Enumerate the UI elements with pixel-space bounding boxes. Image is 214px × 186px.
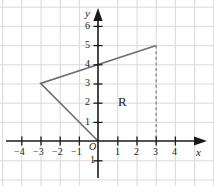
x-tick-label-3: 3 [153, 147, 158, 157]
x-axis-label: x [196, 147, 201, 158]
coordinate-plane-figure: −4 −3 −2 −1 1 2 3 4 6 5 4 3 2 1 1 O x y … [0, 0, 214, 186]
region-label-r: R [118, 95, 127, 108]
x-tick-label--3: −3 [33, 147, 44, 157]
x-axis [6, 136, 207, 145]
y-axis-label: y [85, 8, 90, 19]
x-tick-label-4: 4 [172, 147, 177, 157]
y-axis [93, 8, 102, 178]
x-axis-arrowhead [194, 136, 207, 145]
x-tick-label--2: −2 [52, 147, 63, 157]
graph-canvas [0, 0, 214, 186]
x-tick-label-1: 1 [115, 147, 120, 157]
y-tick-label-5: 5 [85, 40, 90, 50]
y-tick-label--1: 1 [90, 155, 95, 165]
x-tick-label--4: −4 [14, 147, 25, 157]
grid-lines [0, 0, 214, 186]
origin-label: O [89, 142, 96, 152]
x-tick-label--1: −1 [71, 147, 82, 157]
x-tick-label-2: 2 [134, 147, 139, 157]
y-tick-label-1: 1 [85, 117, 90, 127]
y-tick-label-3: 3 [85, 78, 90, 88]
y-tick-label-6: 6 [85, 21, 90, 31]
y-tick-label-2: 2 [85, 97, 90, 107]
y-axis-arrowhead [93, 8, 102, 21]
y-tick-label-4: 4 [85, 59, 90, 69]
